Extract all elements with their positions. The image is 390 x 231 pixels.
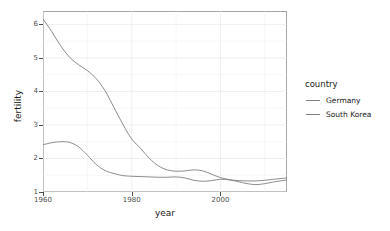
x-tick-label: 2000 xyxy=(212,196,230,204)
y-tick-label: 2 xyxy=(22,154,38,162)
x-tick-label: 1960 xyxy=(34,196,52,204)
y-tick-mark xyxy=(39,91,43,92)
legend-line-icon xyxy=(305,108,321,122)
x-axis-title: year xyxy=(43,208,287,218)
legend-title: country xyxy=(305,80,389,89)
y-tick-label: 1 xyxy=(22,188,38,196)
legend-line-icon xyxy=(305,94,321,108)
legend-label: South Korea xyxy=(326,111,371,119)
chart-root: 123456 196019802000 year fertility count… xyxy=(0,0,390,231)
y-tick-label: 5 xyxy=(22,54,38,62)
x-tick-mark xyxy=(43,192,44,196)
y-tick-mark xyxy=(39,125,43,126)
x-tick-mark xyxy=(132,192,133,196)
y-tick-mark xyxy=(39,58,43,59)
y-tick-label: 6 xyxy=(22,20,38,28)
y-axis-title: fertility xyxy=(13,66,23,146)
legend-item-germany[interactable]: Germany xyxy=(305,94,389,108)
y-tick-mark xyxy=(39,158,43,159)
y-tick-label: 3 xyxy=(22,121,38,129)
y-tick-mark xyxy=(39,24,43,25)
legend: country Germany South Korea xyxy=(305,80,389,122)
legend-item-south-korea[interactable]: South Korea xyxy=(305,108,389,122)
x-tick-label: 1980 xyxy=(123,196,141,204)
legend-label: Germany xyxy=(326,97,360,105)
x-tick-mark xyxy=(220,192,221,196)
y-tick-label: 4 xyxy=(22,87,38,95)
